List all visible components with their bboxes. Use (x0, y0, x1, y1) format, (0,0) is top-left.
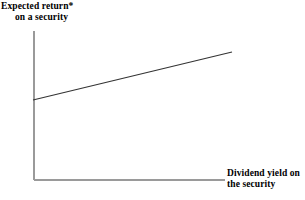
plot-area (0, 0, 305, 200)
chart-figure: Expected return* on a security Dividend … (0, 0, 305, 200)
data-line-expected-return (33, 52, 232, 100)
